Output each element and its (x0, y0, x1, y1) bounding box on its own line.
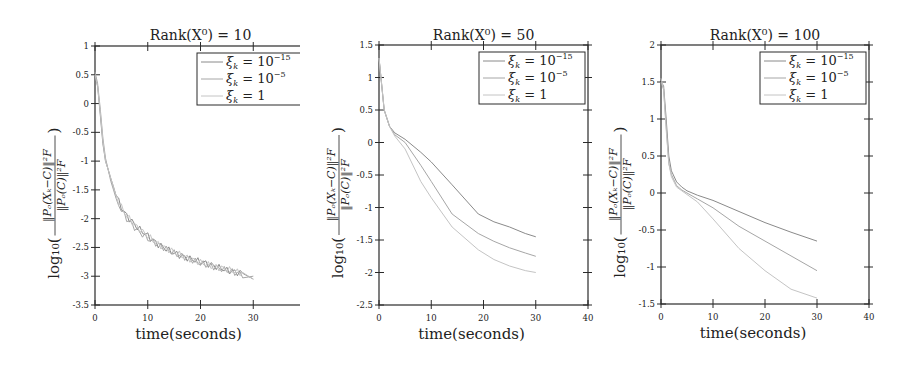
x-axis-label: time(seconds) (135, 325, 242, 343)
y-tick-label: 1 (650, 114, 655, 124)
chart-rank-50: Rank(X⁰) = 500102030401.510.50-0.5-1-1.5… (300, 0, 600, 365)
y-tick-label: 0 (368, 138, 373, 148)
x-tick-label: 20 (195, 313, 206, 323)
legend-entry: ξk = 1 (508, 87, 547, 104)
y-tick-label: 0.5 (75, 70, 89, 80)
chart-panel-rank-100: Rank(X⁰) = 10001020304021.510.50-0.5-1-1… (600, 0, 900, 365)
y-tick-label: -1.5 (639, 299, 655, 309)
y-tick-label: -1.5 (73, 185, 89, 195)
series-line (661, 78, 817, 298)
x-tick-label: 40 (583, 313, 594, 323)
y-tick-label: 1.5 (359, 40, 373, 50)
x-tick-label: 0 (376, 313, 381, 323)
svg-text:‖Pₒ(C)‖²F: ‖Pₒ(C)‖²F (621, 158, 635, 210)
y-tick-label: -2.5 (73, 242, 89, 252)
y-tick-label: -2 (365, 268, 373, 278)
y-tick-label: 1.5 (641, 77, 655, 87)
svg-text:log₁₀(: log₁₀( (45, 238, 63, 279)
x-tick-label: 20 (760, 312, 771, 322)
svg-text:‖Pₒ(C)‖²F: ‖Pₒ(C)‖²F (55, 159, 69, 211)
y-tick-label: -2 (81, 214, 89, 224)
y-tick-label: -0.5 (357, 170, 373, 180)
svg-text:): ) (611, 127, 629, 133)
svg-text:‖Pₒ(C)‖²F: ‖Pₒ(C)‖²F (339, 159, 353, 211)
y-tick-label: -2.5 (357, 300, 373, 310)
svg-text:): ) (45, 128, 63, 134)
x-tick-label: 30 (530, 313, 541, 323)
svg-text:‖Pₒ(Xₖ−C)‖²F: ‖Pₒ(Xₖ−C)‖²F (325, 148, 339, 221)
svg-text:log₁₀(: log₁₀( (329, 237, 347, 278)
legend-entry: ξk = 1 (226, 88, 265, 105)
svg-text:): ) (329, 127, 347, 133)
x-tick-label: 0 (92, 313, 97, 323)
x-tick-label: 40 (864, 312, 875, 322)
x-axis-label: time(seconds) (700, 324, 807, 342)
series-line (661, 82, 817, 271)
y-tick-label: 1 (84, 41, 89, 51)
chart-title: Rank(X⁰) = 50 (433, 27, 535, 43)
y-axis-label: log₁₀(‖Pₒ(Xₖ−C)‖²F‖Pₒ(C)‖²F) (607, 127, 635, 278)
y-tick-label: -1 (81, 156, 89, 166)
x-tick-label: 10 (142, 313, 153, 323)
y-axis-label: log₁₀(‖Pₒ(Xₖ−C)‖²F‖Pₒ(C)‖²F) (41, 128, 69, 279)
legend-entry: ξk = 1 (789, 87, 828, 104)
x-tick-label: 30 (812, 312, 823, 322)
y-tick-label: 0.5 (359, 105, 373, 115)
chart-rank-100: Rank(X⁰) = 10001020304021.510.50-0.5-1-1… (600, 0, 904, 365)
y-tick-label: 0 (650, 188, 655, 198)
chart-title: Rank(X⁰) = 100 (710, 27, 821, 43)
y-axis-label: log₁₀(‖Pₒ(Xₖ−C)‖²F‖Pₒ(C)‖²F) (325, 127, 353, 278)
chart-rank-10: Rank(X⁰) = 1001020304010.50-0.5-1-1.5-2-… (0, 0, 300, 365)
x-axis-label: time(seconds) (418, 325, 525, 343)
y-tick-label: -1 (647, 262, 655, 272)
y-tick-label: -1 (365, 203, 373, 213)
chart-panel-rank-50: Rank(X⁰) = 500102030401.510.50-0.5-1-1.5… (300, 0, 600, 365)
svg-text:log₁₀(: log₁₀( (611, 237, 629, 278)
y-tick-label: -1.5 (357, 235, 373, 245)
y-tick-label: 0 (84, 99, 89, 109)
x-tick-label: 10 (426, 313, 437, 323)
x-tick-label: 10 (708, 312, 719, 322)
chart-title: Rank(X⁰) = 10 (150, 27, 252, 43)
x-tick-label: 20 (478, 313, 489, 323)
svg-text:‖Pₒ(Xₖ−C)‖²F: ‖Pₒ(Xₖ−C)‖²F (41, 149, 55, 222)
y-tick-label: -3 (81, 271, 89, 281)
y-tick-label: -0.5 (73, 127, 89, 137)
y-tick-label: 1 (368, 73, 373, 83)
y-tick-label: 2 (650, 40, 655, 50)
y-tick-label: -3.5 (73, 300, 89, 310)
x-tick-label: 30 (248, 313, 259, 323)
legend: ξk = 10−15ξk = 10−5ξk = 1 (197, 53, 300, 105)
legend: ξk = 10−15ξk = 10−5ξk = 1 (479, 52, 585, 104)
legend: ξk = 10−15ξk = 10−5ξk = 1 (760, 52, 866, 104)
y-tick-label: -0.5 (639, 225, 655, 235)
y-tick-label: 0.5 (641, 151, 655, 161)
chart-panel-rank-10: Rank(X⁰) = 1001020304010.50-0.5-1-1.5-2-… (0, 0, 300, 365)
svg-text:‖Pₒ(Xₖ−C)‖²F: ‖Pₒ(Xₖ−C)‖²F (607, 148, 621, 221)
x-tick-label: 0 (658, 312, 663, 322)
series-line (661, 82, 817, 241)
